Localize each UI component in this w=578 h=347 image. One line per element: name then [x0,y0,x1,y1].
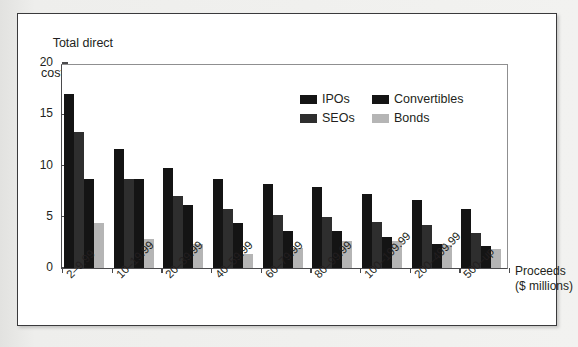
bar-ipos [362,194,372,268]
x-axis-title-line2: ($ millions) [515,279,573,294]
x-axis-title: Proceeds ($ millions) [515,264,573,293]
y-axis-title-line1: Total direct [53,36,113,50]
legend-item-ipos: IPOs [300,93,372,105]
x-axis-tick-labels: 2–9.9910–19.9920–39.9940–59.9960–79.9980… [61,272,508,332]
legend-label: IPOs [322,93,350,105]
legend-swatch-icon [300,114,317,123]
y-tick-label: 5 [46,209,53,223]
bar-group [263,65,303,268]
bar-group [213,65,253,268]
bar-group [163,65,203,268]
bar-ipos [163,168,173,268]
legend-swatch-icon [372,95,389,104]
legend-label: SEOs [322,112,355,124]
x-tick-mark [509,268,510,273]
y-tick-label: 0 [46,260,53,274]
y-tick-mark [62,62,68,63]
y-tick-label: 10 [40,158,53,172]
chart-panel: Total direct costs (%) 05101520 2–9.9910… [17,13,557,326]
bar-ipos [114,149,124,268]
legend-item-convertibles: Convertibles [372,93,475,105]
legend-item-seos: SEOs [300,112,372,124]
bar-ipos [312,187,322,268]
bar-seos [74,132,84,268]
chart-legend: IPOsConvertiblesSEOsBonds [300,93,475,124]
legend-label: Bonds [394,112,429,124]
x-axis-title-line1: Proceeds [515,264,573,279]
bar-bonds [94,223,104,268]
bar-ipos [263,184,273,268]
y-tick-label: 20 [40,55,53,69]
bar-ipos [64,94,74,268]
legend-item-bonds: Bonds [372,112,475,124]
legend-swatch-icon [372,114,389,123]
bar-group [64,65,104,268]
legend-label: Convertibles [394,93,463,105]
bar-ipos [412,200,422,268]
bar-ipos [213,179,223,268]
figure-root: Total direct costs (%) 05101520 2–9.9910… [0,0,578,347]
y-tick-label: 15 [40,106,53,120]
legend-swatch-icon [300,95,317,104]
bar-group [114,65,154,268]
